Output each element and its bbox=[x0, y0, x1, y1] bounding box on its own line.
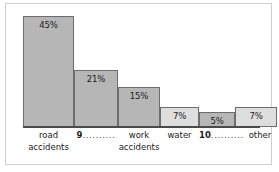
category-label-other: other bbox=[239, 130, 279, 142]
x-axis-category-labels: road accidents 9.......... work accident… bbox=[23, 130, 265, 162]
gap-dots-9: .......... bbox=[82, 130, 115, 140]
category-label-line2: accidents bbox=[23, 142, 74, 154]
category-label-road-accidents: road accidents bbox=[23, 130, 74, 153]
bar-value-label: 7% bbox=[249, 108, 262, 121]
category-label-water: water bbox=[160, 130, 199, 142]
bar-value-label: 7% bbox=[173, 108, 186, 121]
category-label-line1: road bbox=[39, 130, 58, 140]
category-label-gap-9: 9.......... bbox=[74, 130, 118, 142]
category-label-gap-10: 10.......... bbox=[199, 130, 239, 142]
bar-gap-9: 21% bbox=[74, 70, 118, 127]
bar-value-label: 45% bbox=[39, 17, 57, 30]
category-label-line1: water bbox=[167, 130, 191, 140]
category-label-line2: accidents bbox=[118, 142, 160, 154]
gap-number-10: 10 bbox=[199, 130, 211, 140]
x-axis-baseline bbox=[23, 126, 260, 128]
category-label-work-accidents: work accidents bbox=[118, 130, 160, 153]
chart-frame: 45% 21% 15% 7% 5% 7% road accidents 9...… bbox=[5, 3, 272, 165]
bar-road-accidents: 45% bbox=[23, 16, 74, 127]
bar-value-label: 21% bbox=[87, 71, 105, 84]
bar-water: 7% bbox=[160, 107, 199, 127]
category-label-line1: other bbox=[249, 130, 272, 140]
category-label-line1: work bbox=[129, 130, 150, 140]
bar-value-label: 5% bbox=[210, 113, 223, 126]
bar-gap-10: 5% bbox=[199, 112, 235, 127]
bar-chart-plot-area: 45% 21% 15% 7% 5% 7% bbox=[23, 10, 260, 127]
bar-work-accidents: 15% bbox=[118, 87, 160, 127]
bar-other: 7% bbox=[235, 107, 277, 127]
bar-value-label: 15% bbox=[130, 88, 148, 101]
